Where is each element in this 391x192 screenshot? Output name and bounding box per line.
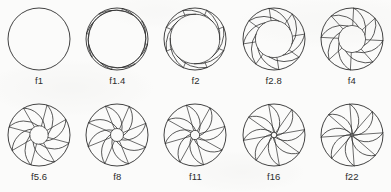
- fstop-label: f2: [191, 75, 199, 86]
- fstop-label: f5.6: [31, 171, 47, 182]
- fstop-label: f11: [189, 171, 202, 182]
- aperture-blade-spine: [123, 137, 146, 147]
- fstop-label: f1: [35, 75, 43, 86]
- aperture-blade-edge: [124, 106, 133, 135]
- aperture-cell-f2-8: f2.8: [235, 0, 313, 96]
- fstop-label: f4: [348, 75, 356, 86]
- aperture-blade-edge: [195, 139, 223, 152]
- aperture-blade-spine: [332, 135, 352, 157]
- aperture-cell-f8: f8: [78, 96, 156, 192]
- aperture-cell-f11: f11: [156, 96, 234, 192]
- aperture-opening-circle: [338, 25, 365, 52]
- aperture-blade-spine: [350, 53, 351, 70]
- aperture-opening-circle: [191, 130, 200, 139]
- aperture-opening-circle: [30, 125, 49, 144]
- iris-diaphragm-icon: [161, 101, 229, 169]
- aperture-blade-edge: [328, 114, 352, 134]
- aperture-blade-spine: [353, 8, 354, 25]
- fstop-label: f22: [345, 171, 359, 182]
- aperture-blade-spine: [120, 106, 130, 129]
- aperture-cell-f1-4: f1.4: [78, 0, 156, 96]
- fstop-label: f2.8: [266, 75, 282, 86]
- aperture-blade-edge: [195, 51, 225, 64]
- aperture-blade-edge: [351, 136, 375, 156]
- iris-diaphragm-icon: [5, 5, 73, 73]
- aperture-blade-spine: [200, 137, 223, 150]
- aperture-blade-spine: [89, 122, 112, 132]
- fstop-label: f1.4: [109, 75, 125, 86]
- fstop-label: f16: [267, 171, 281, 182]
- aperture-barrel-circle: [164, 8, 226, 70]
- iris-diaphragm-icon: [83, 101, 151, 169]
- aperture-blade-spine: [269, 8, 271, 20]
- aperture-blade-edge: [356, 41, 383, 53]
- aperture-opening-circle: [351, 133, 353, 135]
- aperture-barrel-circle: [86, 8, 148, 70]
- aperture-opening-circle: [171, 14, 221, 64]
- aperture-grid: f1f1.4f2f2.8f4f5.6f8f11f16f22: [0, 0, 391, 191]
- fstop-label: f8: [113, 171, 121, 182]
- aperture-fstop-diagram: f1f1.4f2f2.8f4f5.6f8f11f16f22: [0, 0, 391, 191]
- aperture-blade-edge: [167, 14, 197, 27]
- aperture-cell-f2: f2: [156, 0, 234, 96]
- iris-diaphragm-icon: [83, 5, 151, 73]
- aperture-blade-edge: [338, 43, 350, 70]
- aperture-blade-spine: [12, 139, 31, 150]
- iris-diaphragm-icon: [318, 101, 386, 169]
- aperture-opening-circle: [88, 10, 146, 68]
- iris-diaphragm-icon: [161, 5, 229, 73]
- iris-diaphragm-icon: [240, 101, 308, 169]
- aperture-blade-spine: [366, 40, 383, 41]
- aperture-barrel-circle: [8, 104, 70, 166]
- aperture-blade-spine: [321, 37, 338, 38]
- aperture-opening-circle: [111, 128, 124, 141]
- aperture-blade-spine: [180, 139, 193, 162]
- aperture-blade-spine: [292, 34, 304, 36]
- aperture-blade-edge: [89, 119, 118, 128]
- aperture-blade-spine: [274, 137, 279, 165]
- aperture-blade-spine: [277, 57, 279, 69]
- aperture-blade-edge: [283, 34, 305, 55]
- aperture-blade-edge: [170, 38, 183, 68]
- aperture-cell-f4: f4: [313, 0, 391, 96]
- aperture-opening-circle: [271, 132, 277, 138]
- aperture-opening-circle: [255, 20, 292, 57]
- aperture-blade-edge: [353, 111, 373, 135]
- iris-diaphragm-icon: [318, 5, 386, 73]
- aperture-blade-spine: [168, 119, 191, 132]
- aperture-cell-f1: f1: [0, 0, 78, 96]
- aperture-cell-f22: f22: [313, 96, 391, 192]
- aperture-blade-spine: [353, 135, 375, 155]
- aperture-blade-edge: [207, 10, 220, 39]
- aperture-blade-edge: [257, 48, 278, 70]
- iris-diaphragm-icon: [5, 101, 73, 169]
- aperture-blade-edge: [117, 141, 146, 150]
- iris-diaphragm-icon: [240, 5, 308, 73]
- aperture-cell-f5-6: f5.6: [0, 96, 78, 192]
- aperture-blade-spine: [243, 42, 255, 44]
- aperture-blade-spine: [321, 135, 351, 137]
- aperture-blade-spine: [243, 135, 271, 140]
- aperture-blade-edge: [243, 23, 265, 44]
- aperture-barrel-circle: [321, 8, 383, 70]
- aperture-barrel-circle: [164, 104, 226, 166]
- aperture-blade-edge: [331, 134, 351, 158]
- aperture-blade-spine: [276, 129, 304, 134]
- aperture-blade-spine: [353, 132, 383, 134]
- aperture-blade-spine: [350, 104, 352, 134]
- aperture-blade-edge: [321, 25, 348, 37]
- aperture-blade-spine: [44, 143, 55, 162]
- aperture-barrel-circle: [8, 8, 70, 70]
- aperture-blade-spine: [353, 111, 373, 133]
- aperture-blade-edge: [102, 134, 111, 163]
- aperture-barrel-circle: [243, 104, 305, 166]
- aperture-blade-edge: [354, 8, 366, 35]
- aperture-blade-spine: [328, 114, 350, 134]
- aperture-blade-spine: [198, 107, 211, 130]
- aperture-blade-spine: [24, 108, 35, 127]
- aperture-cell-f16: f16: [235, 96, 313, 192]
- aperture-blade-edge: [269, 8, 290, 30]
- aperture-blade-spine: [268, 104, 273, 132]
- aperture-barrel-circle: [243, 8, 305, 70]
- aperture-blade-spine: [47, 119, 66, 130]
